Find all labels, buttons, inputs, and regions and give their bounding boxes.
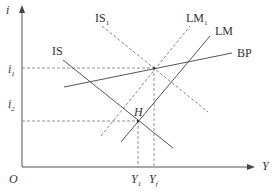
is1-label: IS1 <box>95 12 109 27</box>
is-lm-bp-diagram <box>0 0 275 194</box>
y-axis-label: i <box>6 4 9 16</box>
lm1-curve <box>101 26 190 136</box>
i2-tick-label: i2 <box>8 98 15 113</box>
origin-label: O <box>9 173 18 185</box>
y1-tick-label: Y1 <box>131 173 141 188</box>
point-equilibrium <box>153 67 155 69</box>
point-h <box>137 120 139 122</box>
bp-curve <box>64 53 232 87</box>
point-h-label: H <box>134 106 143 118</box>
is-label: IS <box>52 45 63 57</box>
lm-label: LM <box>215 25 233 37</box>
bp-label: BP <box>237 47 252 59</box>
x-axis-label: Y <box>262 160 269 172</box>
lm1-label: LM1 <box>186 12 208 27</box>
i1-tick-label: i1 <box>8 63 15 78</box>
yf-tick-label: Yf <box>149 173 158 188</box>
is-curve <box>63 60 173 148</box>
